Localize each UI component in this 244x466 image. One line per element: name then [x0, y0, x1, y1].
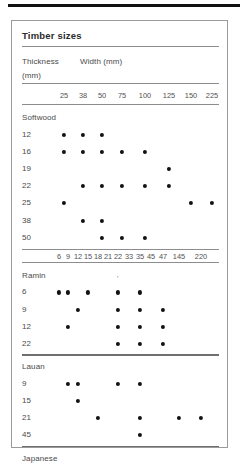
data-dot [116, 342, 120, 346]
row-label-0-5: 38 [22, 216, 31, 225]
data-dot [100, 218, 104, 222]
group-label-1: Ramin [22, 271, 46, 280]
upper-scale-tick-150: 150 [185, 91, 197, 100]
data-dot [138, 416, 142, 420]
data-dot [76, 308, 80, 312]
data-dot [177, 416, 181, 420]
lower-scale-tick-15: 15 [84, 252, 92, 261]
section-rule [22, 446, 219, 448]
data-dot [57, 290, 61, 294]
title-rule [22, 46, 219, 47]
page-top-rule [8, 4, 240, 7]
row-label-2-0: 9 [22, 379, 27, 388]
group-label-0: Softwood [22, 113, 56, 122]
figure-canvas: Timber sizes Thickness (mm) Width (mm) 2… [12, 21, 229, 449]
data-dot [100, 236, 104, 240]
row-label-0-4: 25 [22, 198, 31, 207]
data-dot [62, 132, 66, 136]
data-dot [66, 325, 70, 329]
timber-sizes-card: Timber sizes Thickness (mm) Width (mm) 2… [11, 20, 228, 448]
figure-page: Timber sizes Thickness (mm) Width (mm) 2… [0, 0, 244, 466]
row-label-0-6: 50 [22, 233, 31, 242]
row-label-1-1: 9 [22, 305, 27, 314]
data-dot [76, 399, 80, 403]
header-rule [22, 83, 219, 84]
page-title: Timber sizes [22, 30, 82, 41]
row-label-2-1: 15 [22, 396, 31, 405]
data-dot [66, 290, 70, 294]
row-label-0-2: 19 [22, 164, 31, 173]
lower-scale-tick-21: 21 [104, 252, 112, 261]
data-dot [116, 308, 120, 312]
data-dot [189, 201, 193, 205]
lower-scale-tick-9: 9 [66, 252, 70, 261]
row-label-2-2: 21 [22, 413, 31, 422]
data-dot [120, 150, 124, 154]
data-dot [81, 184, 85, 188]
row-label-0-3: 22 [22, 181, 31, 190]
data-dot [120, 184, 124, 188]
row-label-1-3: 22 [22, 339, 31, 348]
data-dot [81, 150, 85, 154]
data-dot [210, 201, 214, 205]
data-dot [138, 290, 142, 294]
data-dot [62, 201, 66, 205]
data-dot [161, 308, 165, 312]
lower-scale-tick-33: 33 [125, 252, 133, 261]
upper-scale-tick-225: 225 [206, 91, 218, 100]
data-dot [81, 132, 85, 136]
data-dot [116, 325, 120, 329]
section-rule [22, 354, 219, 356]
row-label-0-1: 16 [22, 147, 31, 156]
lower-scale-tick-45: 45 [147, 252, 155, 261]
row-label-0-0: 12 [22, 130, 31, 139]
upper-scale-tick-125: 125 [163, 91, 175, 100]
data-dot [138, 325, 142, 329]
data-dot [62, 150, 66, 154]
section-rule [22, 249, 219, 250]
data-dot [116, 290, 120, 294]
data-dot [100, 184, 104, 188]
data-dot [86, 290, 90, 294]
col-header-width: Width (mm) [80, 57, 122, 66]
lower-scale-tick-6: 6 [57, 252, 61, 261]
data-dot [120, 236, 124, 240]
data-dot [117, 276, 118, 277]
data-dot [100, 150, 104, 154]
lower-scale-tick-35: 35 [136, 252, 144, 261]
upper-scale-tick-75: 75 [118, 91, 126, 100]
upper-scale-tick-100: 100 [139, 91, 151, 100]
lower-scale-tick-18: 18 [94, 252, 102, 261]
group-label-2: Lauan [22, 362, 45, 371]
data-dot [143, 184, 147, 188]
row-header-units: (mm) [22, 71, 41, 80]
data-dot [199, 416, 203, 420]
data-dot [138, 433, 142, 437]
data-dot [81, 218, 85, 222]
data-dot [143, 236, 147, 240]
data-dot [100, 132, 104, 136]
lower-scale-tick-22: 22 [114, 252, 122, 261]
data-dot [167, 184, 171, 188]
upper-scale-rule [22, 104, 219, 105]
data-dot [161, 325, 165, 329]
lower-scale-tick-220: 220 [195, 252, 207, 261]
data-dot [116, 382, 120, 386]
upper-scale-tick-25: 25 [60, 91, 68, 100]
data-dot [138, 308, 142, 312]
row-label-1-0: 6 [22, 287, 27, 296]
data-dot [167, 167, 171, 171]
row-header-thickness: Thickness [22, 57, 59, 66]
data-dot [76, 382, 80, 386]
lower-scale-tick-145: 145 [173, 252, 185, 261]
data-dot [138, 342, 142, 346]
upper-scale-tick-50: 50 [98, 91, 106, 100]
group-label-3-line1: Japanese [22, 454, 58, 463]
section-rule [22, 262, 219, 263]
lower-scale-tick-12: 12 [74, 252, 82, 261]
row-label-1-2: 12 [22, 322, 31, 331]
data-dot [138, 382, 142, 386]
data-dot [66, 382, 70, 386]
data-dot [96, 416, 100, 420]
lower-scale-tick-47: 47 [159, 252, 167, 261]
